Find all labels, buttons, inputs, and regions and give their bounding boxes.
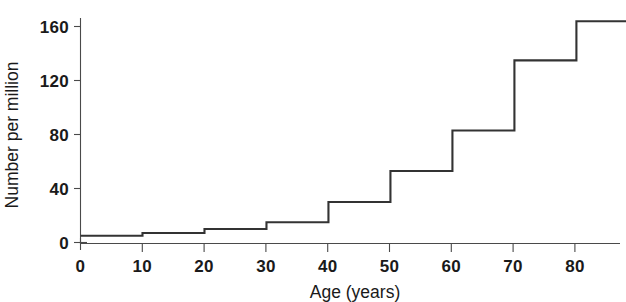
x-axis-ticks <box>81 238 575 252</box>
step-chart: 0 40 80 120 160 0 10 20 30 40 50 60 <box>0 0 626 302</box>
x-tick-label-50: 50 <box>380 257 400 276</box>
x-tick-label-80: 80 <box>565 257 585 276</box>
x-tick-label-0: 0 <box>76 257 86 276</box>
step-series-line <box>81 21 626 235</box>
x-axis-title: Age (years) <box>310 282 400 302</box>
x-tick-label-40: 40 <box>318 257 338 276</box>
y-tick-label-40: 40 <box>49 180 69 199</box>
y-axis-tick-labels: 0 40 80 120 160 <box>40 18 69 253</box>
x-tick-label-10: 10 <box>133 257 153 276</box>
y-tick-label-80: 80 <box>49 126 69 145</box>
x-tick-label-60: 60 <box>442 257 462 276</box>
y-axis-title: Number per million <box>2 62 22 209</box>
x-tick-label-70: 70 <box>503 257 523 276</box>
y-tick-label-160: 160 <box>40 18 69 37</box>
chart-page: 0 40 80 120 160 0 10 20 30 40 50 60 <box>0 0 626 302</box>
y-tick-label-0: 0 <box>59 234 69 253</box>
x-axis-tick-labels: 0 10 20 30 40 50 60 70 80 <box>76 257 585 276</box>
x-tick-label-20: 20 <box>194 257 214 276</box>
x-tick-label-30: 30 <box>256 257 276 276</box>
y-tick-label-120: 120 <box>40 72 69 91</box>
